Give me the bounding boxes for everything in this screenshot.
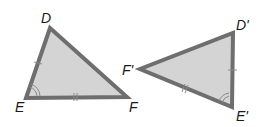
congruent-triangles-diagram: D E F D' E' F' [0, 0, 270, 127]
label-e: E [15, 99, 25, 115]
label-d-prime: D' [236, 17, 250, 33]
triangle-d-prime-e-prime-f-prime: D' E' F' [122, 17, 250, 124]
label-e-prime: E' [236, 108, 249, 124]
label-f: F [129, 99, 139, 115]
triangle-def: D E F [15, 10, 139, 115]
triangle-def-prime-shape [140, 33, 233, 107]
label-f-prime: F' [122, 62, 135, 78]
triangle-def-shape [26, 28, 127, 98]
label-d: D [41, 10, 51, 26]
